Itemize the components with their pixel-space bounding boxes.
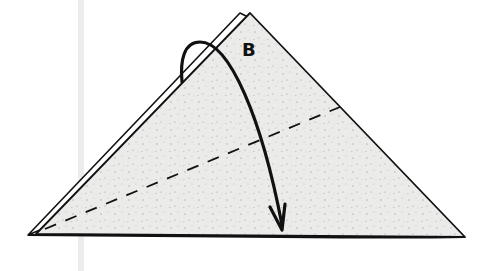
fold-illustration: B (0, 0, 478, 271)
step-label-b: B (242, 39, 256, 60)
origami-diagram: B (0, 0, 478, 271)
